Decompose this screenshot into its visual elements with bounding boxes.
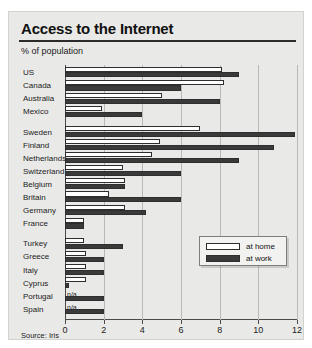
category-label-portugal: Portugal [23, 292, 53, 301]
chart-subtitle: % of population [21, 46, 83, 56]
bar-work-us [65, 72, 239, 77]
bar-work-australia [65, 99, 220, 104]
x-tick-label-4: 4 [140, 325, 145, 335]
x-tick-12 [297, 320, 298, 324]
bar-home-france [65, 218, 84, 223]
legend-swatch-work-icon [206, 255, 240, 262]
bar-work-finland [65, 145, 274, 150]
category-label-cyprus: Cyprus [23, 279, 48, 288]
category-label-italy: Italy [23, 266, 38, 275]
bar-home-australia [65, 93, 162, 98]
x-tick-10 [258, 320, 259, 324]
legend-swatch-home-icon [206, 243, 240, 250]
x-tick-2 [104, 320, 105, 324]
bar-work-italy [65, 270, 104, 275]
x-tick-label-12: 12 [292, 325, 302, 335]
category-label-switzerland: Switzerland [23, 167, 64, 176]
category-label-spain: Spain [23, 305, 43, 314]
bar-work-switzerland [65, 171, 181, 176]
bar-work-cyprus [65, 283, 69, 288]
category-label-britain: Britain [23, 193, 46, 202]
bar-home-greece [65, 251, 86, 256]
bar-home-netherlands [65, 152, 152, 157]
source-note: Source: Iris [21, 331, 59, 340]
title-divider [19, 40, 296, 42]
bar-work-greece [65, 257, 104, 262]
bar-home-finland [65, 139, 160, 144]
chart-legend[interactable]: at home at work [199, 236, 287, 266]
bar-home-britain [65, 191, 109, 196]
x-tick-label-6: 6 [178, 325, 183, 335]
x-tick-8 [220, 320, 221, 324]
x-tick-label-8: 8 [217, 325, 222, 335]
bar-work-portugal [65, 296, 104, 301]
gridline-10 [258, 65, 259, 320]
bar-home-canada [65, 80, 224, 85]
bar-work-belgium [65, 184, 125, 189]
category-label-belgium: Belgium [23, 180, 52, 189]
category-label-australia: Australia [23, 94, 54, 103]
gridline-12 [297, 65, 298, 320]
bar-work-sweden [65, 132, 295, 137]
bar-home-us [65, 67, 222, 72]
bar-home-turkey [65, 238, 84, 243]
x-tick-label-2: 2 [101, 325, 106, 335]
x-tick-6 [181, 320, 182, 324]
bar-home-italy [65, 264, 86, 269]
chart-panel: Access to the Internet % of population n… [8, 11, 304, 340]
legend-item-at-home[interactable]: at home [206, 242, 275, 251]
category-label-sweden: Sweden [23, 128, 52, 137]
bar-home-switzerland [65, 165, 123, 170]
bar-home-sweden [65, 126, 200, 131]
category-label-france: France [23, 219, 48, 228]
bar-home-mexico [65, 106, 102, 111]
category-label-mexico: Mexico [23, 107, 48, 116]
x-tick-0 [65, 320, 66, 324]
x-tick-label-0: 0 [62, 325, 67, 335]
bar-home-belgium [65, 178, 125, 183]
plot-area: n/an/a 024681012 [65, 65, 297, 320]
category-label-netherlands: Netherlands [23, 154, 66, 163]
bar-work-turkey [65, 244, 123, 249]
category-label-germany: Germany [23, 206, 56, 215]
bar-work-germany [65, 210, 146, 215]
bar-work-france [65, 223, 84, 228]
legend-label-at-work: at work [246, 254, 272, 263]
category-label-greece: Greece [23, 252, 49, 261]
bar-work-netherlands [65, 158, 239, 163]
bar-work-spain [65, 309, 104, 314]
legend-label-at-home: at home [246, 242, 275, 251]
x-tick-4 [142, 320, 143, 324]
bar-work-britain [65, 197, 181, 202]
category-label-canada: Canada [23, 81, 51, 90]
category-label-turkey: Turkey [23, 239, 47, 248]
gridline-8 [220, 65, 221, 320]
x-tick-label-10: 10 [253, 325, 263, 335]
category-label-us: US [23, 68, 34, 77]
bar-home-germany [65, 205, 125, 210]
bar-work-canada [65, 85, 181, 90]
chart-title: Access to the Internet [21, 20, 173, 37]
category-label-finland: Finland [23, 141, 49, 150]
screenshot-root: Access to the Internet % of population n… [0, 0, 312, 348]
legend-item-at-work[interactable]: at work [206, 254, 272, 263]
bar-work-mexico [65, 112, 142, 117]
bar-home-cyprus [65, 277, 86, 282]
